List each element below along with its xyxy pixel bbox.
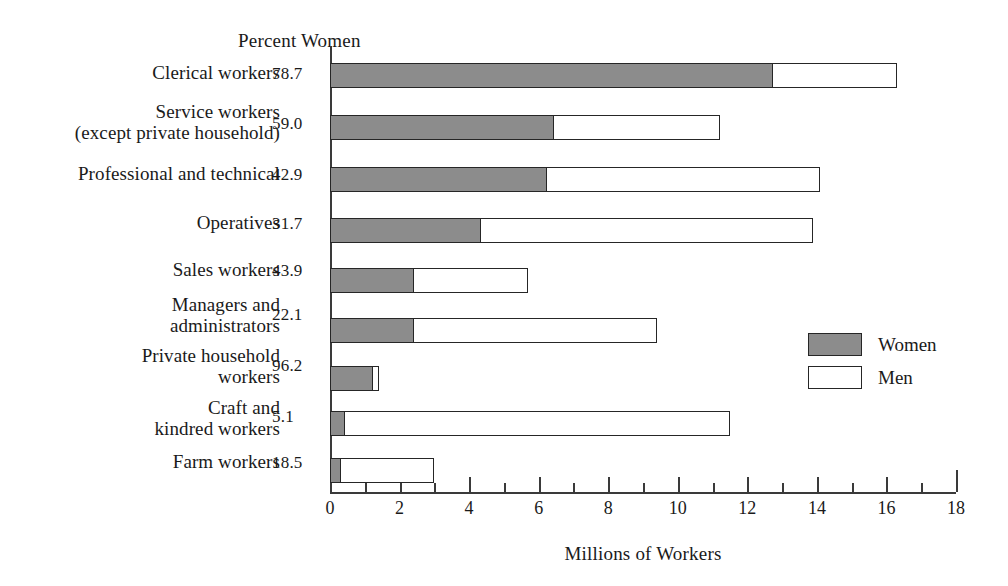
- bar-segment-women-sales-workers: [331, 269, 414, 292]
- x-tick-label-4: 4: [465, 498, 474, 519]
- x-tick-6: [539, 477, 541, 492]
- x-minor-tick-15: [852, 483, 854, 492]
- x-tick-4: [469, 477, 471, 492]
- x-minor-tick-13: [782, 483, 784, 492]
- bar-sales-workers: [330, 268, 528, 293]
- x-tick-18: [956, 470, 958, 492]
- bar-private-household: [330, 366, 379, 391]
- category-label-service-workers: Service workers (except private househol…: [75, 101, 280, 143]
- legend-swatch-men-icon: [808, 366, 862, 389]
- bar-service-workers: [330, 115, 720, 140]
- bar-segment-women-professional-and-technical: [331, 168, 547, 191]
- x-minor-tick-11: [713, 483, 715, 492]
- percent-value-craft-and-kindred-workers: 5.1: [272, 407, 324, 427]
- bar-segment-women-operatives: [331, 219, 481, 242]
- x-tick-label-2: 2: [395, 498, 404, 519]
- category-label-sales-workers: Sales workers: [173, 259, 280, 280]
- bar-segment-women-craft-and: [331, 412, 345, 435]
- legend-label-women: Women: [878, 334, 937, 356]
- x-tick-14: [817, 477, 819, 492]
- bar-clerical-workers: [330, 63, 897, 88]
- category-label-professional-and-technical: Professional and technical: [78, 163, 280, 184]
- legend-row-women: Women: [808, 328, 937, 361]
- category-label-craft-and-kindred-workers: Craft and kindred workers: [155, 397, 281, 439]
- x-tick-label-18: 18: [947, 498, 965, 519]
- x-minor-tick-1: [365, 483, 367, 492]
- legend-swatch-women-icon: [808, 333, 862, 356]
- bar-segment-women-service-workers: [331, 116, 554, 139]
- x-tick-label-16: 16: [877, 498, 895, 519]
- percent-value-farm-workers: 18.5: [272, 453, 324, 473]
- plot-area: 024681012141618: [330, 46, 956, 492]
- category-label-managers-and-administrators: Managers and administrators: [170, 294, 280, 336]
- bar-craft-and: [330, 411, 730, 436]
- x-tick-label-0: 0: [326, 498, 335, 519]
- x-minor-tick-17: [921, 483, 923, 492]
- bar-farm-workers: [330, 458, 434, 483]
- x-tick-label-14: 14: [808, 498, 826, 519]
- category-label-operatives: Operatives: [197, 212, 280, 233]
- x-axis-title: Millions of Workers: [330, 543, 956, 565]
- percent-value-private-household-workers: 96.2: [272, 356, 324, 376]
- x-minor-tick-3: [434, 483, 436, 492]
- x-tick-label-6: 6: [534, 498, 543, 519]
- x-minor-tick-7: [573, 483, 575, 492]
- percent-value-managers-and-administrators: 22.1: [272, 305, 324, 325]
- percent-value-operatives: 31.7: [272, 214, 324, 234]
- percent-value-service-workers: 59.0: [272, 114, 324, 134]
- bar-segment-women-farm-workers: [331, 459, 341, 482]
- bar-segment-women-private-household: [331, 367, 373, 390]
- x-tick-8: [608, 477, 610, 492]
- bar-segment-women-managers-and: [331, 319, 414, 342]
- category-label-clerical-workers: Clerical workers: [152, 62, 280, 83]
- x-tick-12: [747, 477, 749, 492]
- percent-value-clerical-workers: 78.7: [272, 64, 324, 84]
- legend-row-men: Men: [808, 361, 937, 394]
- x-tick-label-10: 10: [669, 498, 687, 519]
- bar-managers-and: [330, 318, 657, 343]
- bar-chart: Percent Women Clerical workers 78.7 Serv…: [0, 0, 1008, 586]
- x-tick-label-8: 8: [604, 498, 613, 519]
- category-label-private-household-workers: Private household workers: [142, 345, 280, 387]
- legend: Women Men: [808, 328, 937, 394]
- x-tick-16: [886, 477, 888, 492]
- x-axis-line: [330, 492, 956, 494]
- x-minor-tick-5: [504, 483, 506, 492]
- bar-professional-and-technical: [330, 167, 820, 192]
- x-tick-10: [678, 477, 680, 492]
- x-tick-label-12: 12: [738, 498, 756, 519]
- percent-value-professional-and-technical: 42.9: [272, 165, 324, 185]
- category-label-farm-workers: Farm workers: [173, 451, 280, 472]
- bar-segment-women-clerical-workers: [331, 64, 773, 87]
- percent-value-sales-workers: 43.9: [272, 261, 324, 281]
- bar-operatives: [330, 218, 813, 243]
- x-minor-tick-9: [643, 483, 645, 492]
- legend-label-men: Men: [878, 367, 913, 389]
